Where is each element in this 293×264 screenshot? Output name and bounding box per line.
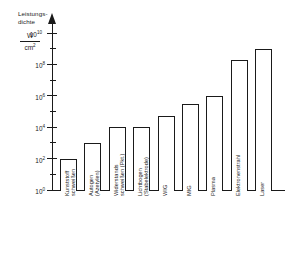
- y-tick-minor: [50, 80, 56, 81]
- y-tick-label: 104: [25, 123, 45, 132]
- x-category-label: WIG: [162, 185, 168, 196]
- y-axis-title-line1: Leistungs-: [18, 10, 48, 17]
- y-axis-title-line2: dichte: [18, 18, 48, 26]
- y-tick-minor: [50, 111, 56, 112]
- y-axis-title: Leistungs- dichte: [18, 10, 48, 26]
- x-category-label-line2: schweißen (Pkt.): [119, 154, 125, 196]
- y-tick-major: [47, 64, 57, 65]
- x-category-label: Laser: [259, 182, 265, 196]
- x-category-label: Elektronenstrahl: [235, 155, 241, 196]
- x-category-label-line1: Widerstands: [113, 154, 119, 196]
- y-tick-major: [47, 95, 57, 96]
- bar: [158, 116, 175, 191]
- y-tick-major: [47, 127, 57, 128]
- bar: [182, 104, 199, 191]
- y-tick-minor: [50, 142, 56, 143]
- y-tick-major: [47, 190, 57, 191]
- x-category-label-line1: Plasma: [210, 177, 216, 196]
- y-tick-major: [47, 33, 57, 34]
- x-category-label: Lichtbogen(Stabelektrode): [137, 157, 150, 196]
- x-category-label-line1: Laser: [259, 182, 265, 196]
- y-tick-label: 108: [25, 60, 45, 69]
- x-category-label: Widerstandsschweißen (Pkt.): [113, 154, 126, 196]
- bar: [255, 49, 272, 191]
- y-tick-minor: [50, 48, 56, 49]
- x-category-label: MIG: [186, 185, 192, 196]
- x-category-label-line1: WIG: [162, 185, 168, 196]
- x-category-label-line2: (Stabelektrode): [144, 157, 150, 196]
- x-category-label-line2: (Azetylen): [95, 170, 101, 196]
- x-category-label-line1: Elektronenstrahl: [235, 155, 241, 196]
- x-category-label-line2: schweißen: [70, 169, 76, 196]
- x-category-label: Plasma: [210, 177, 216, 196]
- x-category-label: Autogen(Azetylen): [88, 170, 101, 196]
- x-category-label-line1: MIG: [186, 185, 192, 196]
- power-density-bar-chart: Leistungs- dichte W cm2 1001021041061081…: [0, 0, 293, 264]
- y-axis-unit-denominator: cm2: [20, 42, 40, 53]
- y-tick-major: [47, 158, 57, 159]
- y-tick-label: 1010: [22, 29, 42, 38]
- y-tick-label: 100: [25, 186, 45, 195]
- y-tick-label: 106: [25, 92, 45, 101]
- y-tick-minor: [50, 174, 56, 175]
- x-category-label: Kunststoffschweißen: [64, 169, 77, 196]
- y-tick-label: 102: [25, 155, 45, 164]
